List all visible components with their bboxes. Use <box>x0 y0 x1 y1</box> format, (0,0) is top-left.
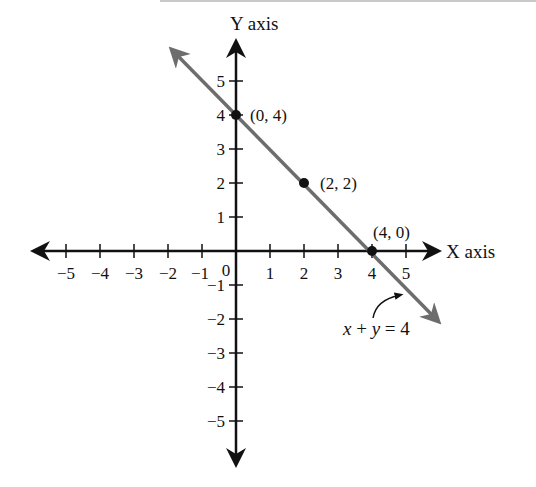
y-tick-label: 4 <box>217 106 226 125</box>
annotation-arrow-icon <box>373 295 400 318</box>
x-tick-label: −2 <box>159 264 177 283</box>
x-tick-label: −5 <box>57 264 75 283</box>
point-label: (4, 0) <box>373 223 410 242</box>
y-axis-title: Y axis <box>230 13 278 34</box>
x-tick-label: −4 <box>91 264 110 283</box>
x-tick-label: 3 <box>334 264 343 283</box>
point-0-4 <box>231 110 241 120</box>
y-tick-label: −1 <box>207 276 225 295</box>
y-tick-label: −3 <box>207 344 225 363</box>
y-axis: 5 4 3 2 1 −1 −2 −3 −4 −5 Y axis <box>207 13 278 458</box>
y-tick-label: 3 <box>217 140 226 159</box>
x-tick-label: 4 <box>368 264 377 283</box>
y-tick-label: −5 <box>207 412 225 431</box>
x-tick-label: 1 <box>266 264 275 283</box>
point-label: (2, 2) <box>320 174 357 193</box>
x-tick-label: 5 <box>402 264 411 283</box>
chart: −5 −4 −3 −2 −1 0 1 2 3 4 5 X axis 5 4 3 … <box>0 0 536 487</box>
y-tick-label: 5 <box>217 72 226 91</box>
point-4-0 <box>367 246 377 256</box>
point-label: (0, 4) <box>250 106 287 125</box>
y-tick-label: 1 <box>217 208 226 227</box>
x-axis: −5 −4 −3 −2 −1 0 1 2 3 4 5 X axis <box>40 241 495 283</box>
equation-label: x + y = 4 <box>342 318 410 339</box>
x-axis-title: X axis <box>446 241 495 262</box>
y-tick-label: −2 <box>207 310 225 329</box>
y-tick-label: −4 <box>207 378 226 397</box>
point-2-2 <box>299 178 309 188</box>
y-tick-label: 2 <box>217 174 226 193</box>
x-tick-label: 2 <box>300 264 309 283</box>
x-tick-label: −3 <box>125 264 143 283</box>
